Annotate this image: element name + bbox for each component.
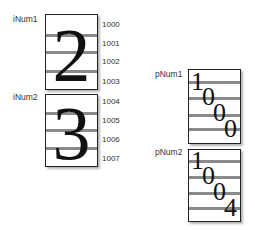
address-label: 1004 [102,97,120,107]
pnum2-memory-box: 1 0 0 4 [188,149,241,222]
address-label: 1001 [102,39,120,49]
inum1-value: 2 [53,17,91,90]
pnum2-digit-3: 4 [224,195,237,221]
inum1-memory-box: 2 [45,14,98,90]
address-label: 1007 [102,154,120,164]
address-label: 1005 [102,116,120,126]
pnum1-label: pNum1 [155,69,182,79]
address-label: 1006 [102,135,120,145]
address-label: 1003 [102,77,120,87]
inum2-label: iNum2 [13,92,38,102]
inum1-label: iNum1 [13,14,38,24]
inum2-value: 3 [53,95,91,167]
pnum1-digit-3: 0 [224,116,237,142]
pnum1-memory-box: 1 0 0 0 [188,69,241,144]
address-label: 1002 [102,57,120,67]
inum2-memory-box: 3 [45,94,98,167]
address-label: 1000 [102,20,120,30]
pnum2-label: pNum2 [155,147,182,157]
